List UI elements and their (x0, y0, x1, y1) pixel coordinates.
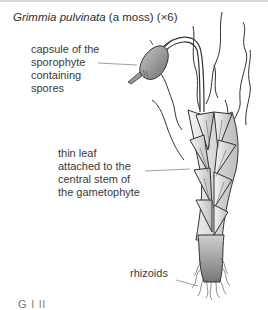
stem-base (198, 235, 224, 282)
capsule-lid (128, 72, 142, 84)
cutoff-caption: G l ll (18, 298, 46, 310)
gametophyte-body (188, 110, 238, 240)
capsule-leader-line (98, 63, 137, 65)
leaf-leader-line (145, 169, 190, 171)
seta-inner (164, 42, 200, 112)
capsule (128, 40, 170, 84)
